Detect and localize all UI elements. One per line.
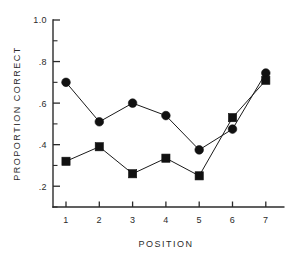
x-axis-tick-label: 6 [230, 215, 235, 225]
chart-figure: 1.0.8.6.4.21234567 PROPORTION CORRECTPOS… [0, 0, 302, 263]
x-axis-tick-label: 3 [130, 215, 135, 225]
x-axis-tick-label: 4 [163, 215, 168, 225]
line-chart-plot: 1.0.8.6.4.21234567 PROPORTION CORRECTPOS… [0, 0, 302, 263]
x-axis-tick-label: 1 [63, 215, 68, 225]
data-point-square [162, 154, 170, 162]
data-series [62, 69, 270, 180]
data-point-square [129, 170, 137, 178]
y-axis-tick-label: .6 [39, 99, 47, 109]
data-point-circle [128, 99, 137, 108]
x-axis-tick-label: 5 [196, 215, 201, 225]
y-axis-tick-label: .4 [39, 140, 47, 150]
data-point-square [262, 76, 270, 84]
data-point-square [195, 172, 203, 180]
x-axis-tick-label: 2 [97, 215, 102, 225]
y-axis-tick-label: 1.0 [33, 15, 47, 25]
data-point-circle [95, 118, 104, 127]
y-axis-tick-label: .2 [39, 182, 47, 192]
data-point-square [228, 114, 236, 122]
y-axis-title: PROPORTION CORRECT [12, 46, 22, 180]
data-point-square [62, 157, 70, 165]
data-point-square [95, 143, 103, 151]
data-point-circle [228, 125, 237, 134]
data-point-circle [62, 78, 71, 87]
data-point-circle [162, 111, 171, 120]
y-axis-tick-label: .8 [39, 57, 47, 67]
data-point-circle [195, 146, 204, 155]
x-axis-title: POSITION [138, 239, 193, 249]
x-axis-tick-label: 7 [263, 215, 268, 225]
